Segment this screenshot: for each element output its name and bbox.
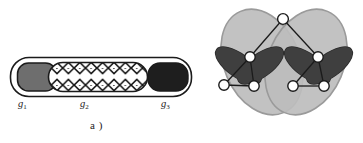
panel-b: b ) bbox=[205, 0, 363, 143]
node-left-bottom-left bbox=[219, 80, 229, 90]
node-right-apex bbox=[313, 52, 323, 62]
segment-g2-hatch-fill bbox=[49, 63, 148, 92]
panel-b-graphic bbox=[205, 0, 363, 143]
node-root bbox=[278, 14, 289, 25]
segment-label-g1-right: g3 bbox=[161, 98, 170, 109]
node-left-apex bbox=[245, 52, 255, 62]
segment-label-g2: g2 bbox=[80, 98, 89, 109]
node-right-bottom-right bbox=[319, 81, 329, 91]
caption-a: a ) bbox=[90, 119, 103, 131]
segment-label-g1-left: g1 bbox=[18, 98, 27, 109]
segment-g1-right bbox=[148, 63, 188, 91]
node-right-bottom-left bbox=[288, 81, 298, 91]
figure-root: g1 g2 g3 a ) bbox=[0, 0, 363, 143]
panel-a: g1 g2 g3 a ) bbox=[0, 0, 205, 143]
node-left-bottom-right bbox=[249, 81, 259, 91]
